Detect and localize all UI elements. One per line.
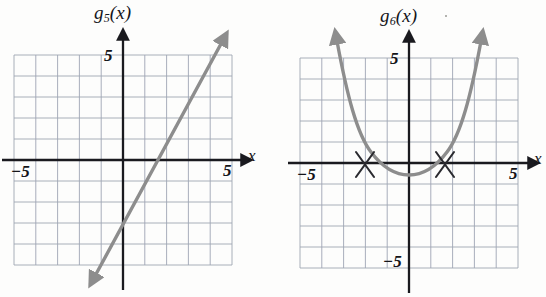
scan-speck <box>445 15 447 17</box>
x-axis-tick-5-g6: 5 <box>509 164 518 184</box>
graph-panel-g6: g6(x) 5 −5 5 −5 x <box>273 0 546 297</box>
x-axis-name-g5: x <box>248 146 256 166</box>
y-axis-tick-5-g5: 5 <box>104 46 113 66</box>
graph-canvas-g5 <box>0 0 273 297</box>
y-axis-tick-neg5-g6: −5 <box>383 252 402 272</box>
graph-canvas-g6 <box>273 0 546 297</box>
function-label-g5-base: g <box>94 2 104 23</box>
y-axis-tick-5-g6: 5 <box>390 49 399 69</box>
function-label-g6-base: g <box>380 5 390 26</box>
graph-panel-g5: g5(x) 5 −5 5 x <box>0 0 273 297</box>
x-axis-tick-neg5-g5: −5 <box>11 162 30 182</box>
function-label-g5: g5(x) <box>94 2 131 26</box>
function-label-g5-arg: (x) <box>110 2 132 23</box>
x-axis-tick-neg5-g6: −5 <box>297 165 316 185</box>
x-axis-name-g6: x <box>534 149 542 169</box>
x-axis-tick-5-g5: 5 <box>223 161 232 181</box>
function-label-g6-arg: (x) <box>396 5 418 26</box>
function-label-g6: g6(x) <box>380 5 417 29</box>
